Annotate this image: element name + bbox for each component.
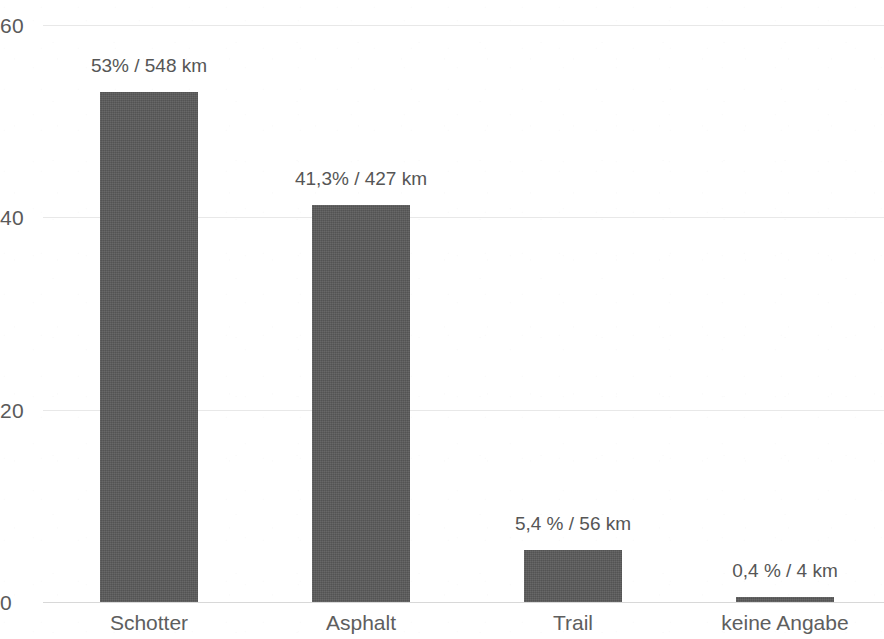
bar-schotter[interactable]	[100, 92, 198, 602]
yaxis-tick-20: 20	[0, 400, 36, 421]
yaxis-tick-0: 0	[0, 592, 36, 613]
bar-asphalt[interactable]	[312, 205, 410, 602]
gridline-60	[43, 25, 884, 26]
yaxis-tick-60: 60	[0, 15, 36, 36]
data-label-schotter: 53% / 548 km	[49, 56, 249, 75]
xaxis-label-trail: Trail	[473, 612, 673, 633]
gridline-0	[43, 602, 884, 603]
xaxis-label-keine-angabe: keine Angabe	[685, 612, 884, 633]
bar-keine-angabe[interactable]	[736, 597, 834, 602]
xaxis-label-schotter: Schotter	[49, 612, 249, 633]
data-label-trail: 5,4 % / 56 km	[473, 514, 673, 533]
xaxis-label-asphalt: Asphalt	[261, 612, 461, 633]
yaxis-tick-40: 40	[0, 207, 36, 228]
data-label-asphalt: 41,3% / 427 km	[261, 169, 461, 188]
data-label-keine-angabe: 0,4 % / 4 km	[685, 561, 884, 580]
plot-area: 53% / 548 km 41,3% / 427 km 5,4 % / 56 k…	[43, 0, 884, 639]
bar-chart: 53% / 548 km 41,3% / 427 km 5,4 % / 56 k…	[0, 0, 884, 639]
bar-trail[interactable]	[524, 550, 622, 602]
